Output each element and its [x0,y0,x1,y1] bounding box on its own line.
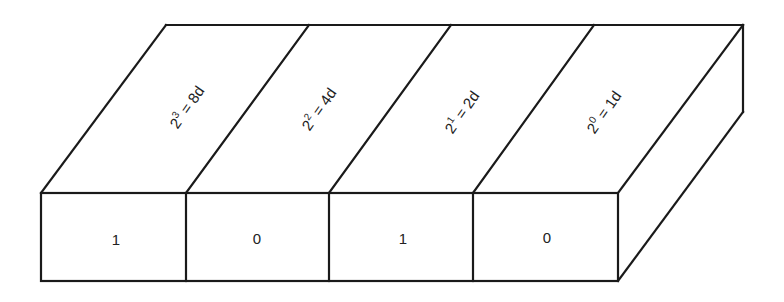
bit-value-2: 1 [399,230,407,247]
binary-register-diagram: 23 = 8d 22 = 4d 21 = 2d 20 = 1d 1 0 1 0 [0,0,784,302]
bit-value-8: 1 [112,231,120,248]
bit-value-4: 0 [253,230,261,247]
bit-value-1: 0 [543,229,551,246]
